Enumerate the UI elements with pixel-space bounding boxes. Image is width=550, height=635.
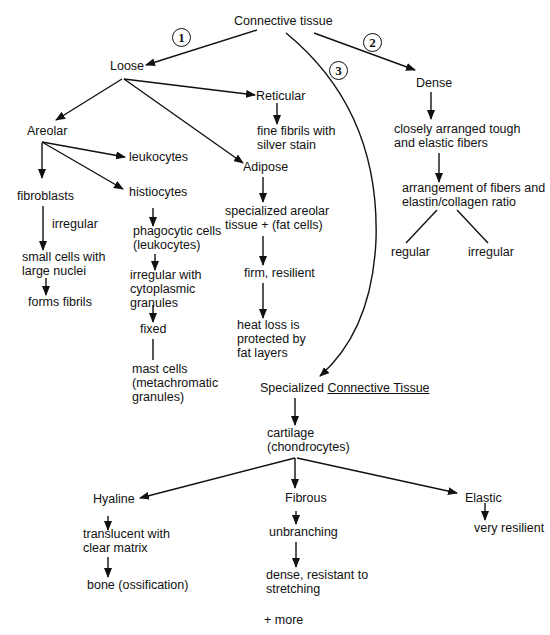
node-small-cells: small cells with large nuclei [22,250,105,278]
node-unbranching: unbranching [269,525,338,539]
node-loose: Loose [110,59,144,73]
node-dense-resistant: dense, resistant to stretching [266,568,368,596]
node-specialized-connective-tissue: Specialized Connective Tissue [260,381,430,395]
node-dense: Dense [416,76,452,90]
node-closely-arranged: closely arranged tough and elastic fiber… [394,122,520,150]
node-irregular-granules: irregular with cytoplasmic granules [130,268,202,310]
node-areolar: Areolar [27,124,67,138]
node-elastic: Elastic [465,491,502,505]
node-fibrous: Fibrous [285,491,327,505]
node-leukocytes: leukocytes [129,150,188,164]
node-very-resilient: very resilient [474,521,544,535]
edge-label-irregular: irregular [52,217,98,231]
node-bone: bone (ossification) [87,578,188,592]
node-forms-fibrils: forms fibrils [28,295,92,309]
node-phagocytic-cells: phagocytic cells (leukocytes) [133,224,221,252]
node-fine-fibrils: fine fibrils with silver stain [257,124,336,152]
node-fixed: fixed [140,322,166,336]
more-label: + more [264,613,303,627]
branch-number-1: 1 [172,28,191,47]
node-cartilage: cartilage (chondrocytes) [267,426,350,454]
node-reticular: Reticular [256,89,305,103]
connective-tissue-flowchart: Connective tissue 1 2 3 Loose Areolar le… [0,0,550,635]
branch-number-2: 2 [363,33,382,52]
node-hyaline: Hyaline [93,492,135,506]
branch-number-3: 3 [329,61,348,80]
node-specialized-areolar: specialized areolar tissue + (fat cells) [225,204,329,232]
node-histiocytes: histiocytes [129,185,187,199]
node-heat-loss: heat loss is protected by fat layers [237,318,306,360]
node-firm-resilient: firm, resilient [244,266,315,280]
node-arrangement-ratio: arrangement of fibers and elastin/collag… [402,181,545,209]
node-irregular-dense: irregular [468,245,514,259]
node-adipose: Adipose [243,160,288,174]
node-connective-tissue: Connective tissue [234,14,333,28]
node-fibroblasts: fibroblasts [17,189,74,203]
node-regular: regular [391,245,430,259]
node-mast-cells: mast cells (metachromatic granules) [132,362,218,404]
node-translucent: translucent with clear matrix [83,527,170,555]
